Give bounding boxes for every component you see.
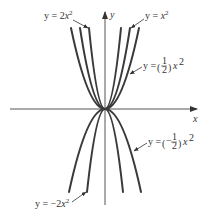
label-prefix: y = — [148, 136, 162, 147]
open-paren: ( — [157, 62, 161, 74]
svg-text:y = x2: y = x2 — [145, 9, 169, 21]
label-prefix: y = −2 — [35, 198, 61, 209]
frac-den: 2 — [172, 140, 177, 151]
label-var: x — [182, 136, 188, 147]
leader-arrow — [130, 67, 142, 74]
label-exp: 2 — [69, 9, 73, 17]
leader-arrow — [73, 20, 88, 28]
leader-arrow — [72, 192, 86, 202]
svg-text:y = 2x2: y = 2x2 — [44, 9, 73, 21]
frac-den: 2 — [162, 64, 167, 75]
x-axis-label: x — [192, 113, 198, 124]
label-y-neg-half-x2: y = ( − 1 2 ) x 2 — [134, 131, 194, 151]
label-prefix: y = — [145, 10, 161, 21]
label-y-x2: y = x2 — [131, 9, 169, 28]
label-exp: 2 — [165, 9, 169, 17]
leader-arrow — [134, 143, 147, 151]
label-y-half-x2: y = ( 1 2 ) x 2 — [130, 55, 184, 75]
label-prefix: y = 2 — [44, 10, 65, 21]
axes: x y — [10, 9, 198, 205]
label-exp: 2 — [66, 197, 70, 205]
leader-arrow — [131, 19, 144, 28]
label-y-neg-2x2: y = −2x2 — [35, 192, 86, 209]
close-paren: ) — [168, 62, 171, 74]
label-y-2x2: y = 2x2 — [44, 9, 88, 28]
close-paren: ) — [178, 138, 181, 150]
label-exp: 2 — [179, 56, 184, 67]
label-prefix: y = — [143, 60, 157, 71]
label-var: x — [172, 60, 178, 71]
y-axis-label: y — [109, 9, 115, 20]
svg-text:y = −2x2: y = −2x2 — [35, 197, 70, 209]
label-exp: 2 — [189, 132, 194, 143]
parabola-family-diagram: x y y = 2x2 y = x2 — [0, 0, 211, 217]
